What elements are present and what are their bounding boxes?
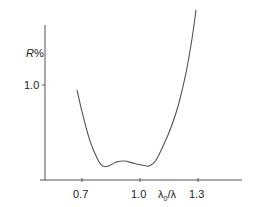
reflectance-chart bbox=[0, 0, 255, 207]
x-tick-label-1.3: 1.3 bbox=[189, 189, 204, 200]
y-axis-label-symbol: R bbox=[26, 47, 34, 59]
y-tick-label-1: 1.0 bbox=[24, 80, 39, 91]
y-axis-label-unit: % bbox=[34, 47, 44, 59]
x-tick-label-0.7: 0.7 bbox=[73, 189, 88, 200]
x-axis-label: λ0/λ bbox=[158, 189, 176, 202]
y-axis-label: R% bbox=[26, 48, 44, 59]
x-tick-label-1.0: 1.0 bbox=[131, 189, 146, 200]
reflectance-curve bbox=[77, 10, 196, 167]
